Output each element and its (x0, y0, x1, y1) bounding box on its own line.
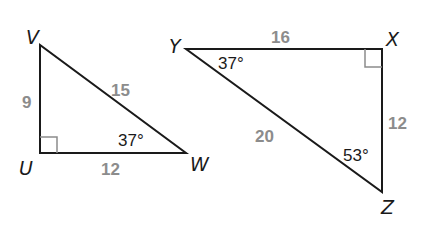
vertex-label-w: W (190, 153, 210, 175)
side-label-uw: 12 (101, 160, 120, 179)
triangles-figure: V U W 9 12 15 37° Y X Z 16 12 20 37° 53° (0, 0, 425, 225)
right-angle-mark-x (365, 49, 382, 67)
side-label-xz: 12 (388, 114, 407, 133)
vertex-label-y: Y (169, 35, 182, 57)
angle-label-y: 37° (218, 54, 244, 73)
vertex-label-x: X (385, 28, 400, 50)
triangle-uvw: V U W 9 12 15 37° (19, 26, 210, 179)
vertex-label-u: U (19, 157, 33, 179)
triangle-xyz-outline (186, 49, 382, 192)
side-label-vw: 15 (111, 81, 130, 100)
angle-label-z: 53° (343, 146, 369, 165)
side-label-vu: 9 (22, 93, 31, 112)
right-angle-mark-u (40, 137, 57, 153)
angle-label-w: 37° (118, 131, 144, 150)
vertex-label-v: V (26, 26, 41, 48)
side-label-yz: 20 (255, 127, 274, 146)
vertex-label-z: Z (380, 196, 395, 218)
side-label-yx: 16 (271, 28, 290, 47)
diagram-canvas: V U W 9 12 15 37° Y X Z 16 12 20 37° 53° (0, 0, 425, 225)
triangle-xyz: Y X Z 16 12 20 37° 53° (169, 28, 407, 218)
